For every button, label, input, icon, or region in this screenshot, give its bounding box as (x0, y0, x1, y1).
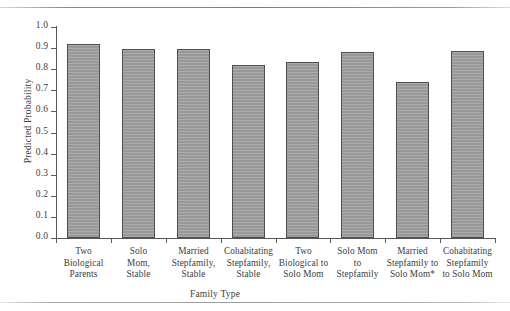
y-axis-tick-label: 0.0 (36, 231, 48, 241)
x-axis-category-label: SoloMom,Stable (107, 246, 170, 281)
x-axis-category-label-line: Married (162, 246, 225, 258)
y-axis-tick: 0.4 (51, 154, 56, 155)
y-axis-tick: 0.7 (51, 90, 56, 91)
x-axis-tick (111, 238, 112, 243)
bar (286, 62, 319, 238)
x-axis-category-label: MarriedStepfamily,Stable (162, 246, 225, 281)
x-axis-category-label-line: Stepfamily, (217, 258, 280, 270)
x-axis-category-label-line: Biological (52, 258, 115, 270)
x-axis-category-label-line: Married (381, 246, 444, 258)
y-axis-tick-label: 0.1 (36, 210, 48, 220)
x-axis-category-label-line: Cohabitating (217, 246, 280, 258)
y-axis-tick: 1.0 (51, 27, 56, 28)
y-axis-tick: 0.3 (51, 175, 56, 176)
page-rule-bottom (0, 302, 510, 303)
bar (341, 52, 374, 238)
y-axis-tick-label: 0.5 (36, 126, 48, 136)
x-axis-category-label-line: Solo Mom (326, 246, 389, 258)
y-axis-tick: 0.1 (51, 217, 56, 218)
bar (451, 51, 484, 238)
x-axis-category-label-line: Stable (217, 269, 280, 281)
y-axis-tick-label: 0.9 (36, 41, 48, 51)
x-axis-category-label-line: to (326, 258, 389, 270)
y-axis-tick: 0.5 (51, 133, 56, 134)
x-axis-category-label: CohabitatingStepfamilyto Solo Mom (436, 246, 499, 281)
x-axis-tick (276, 238, 277, 243)
x-axis-category-label-line: Solo Mom* (381, 269, 444, 281)
bar (122, 49, 155, 238)
bar (67, 44, 100, 238)
plot-area: 1.00.90.80.70.60.50.40.30.20.10.0 (56, 27, 495, 238)
y-axis-tick-label: 0.8 (36, 62, 48, 72)
y-axis-tick-label: 0.4 (36, 147, 48, 157)
x-axis-category-label: MarriedStepfamily toSolo Mom* (381, 246, 444, 281)
x-axis-category-label-line: Cohabitating (436, 246, 499, 258)
x-axis-category-label-line: to Solo Mom (436, 269, 499, 281)
x-axis-category-label: TwoBiologicalParents (52, 246, 115, 281)
running-head (255, 0, 505, 7)
x-axis-category-label-line: Stepfamily (326, 269, 389, 281)
x-axis-category-label-line: Stepfamily (436, 258, 499, 270)
y-axis-tick: 0.6 (51, 111, 56, 112)
x-axis-title: Family Type (0, 289, 430, 299)
x-axis-category-label-line: Stable (162, 269, 225, 281)
x-axis-tick (385, 238, 386, 243)
x-axis-category-label-line: Stepfamily to (381, 258, 444, 270)
y-axis-line (56, 26, 57, 239)
x-axis-category-label-line: Mom, (107, 258, 170, 270)
x-axis-tick (495, 238, 496, 243)
y-axis-tick: 0.2 (51, 196, 56, 197)
y-axis-tick-label: 1.0 (36, 20, 48, 30)
x-axis-category-label: CohabitatingStepfamily,Stable (217, 246, 280, 281)
figure-bar-chart: Predicted Probability 1.00.90.80.70.60.5… (0, 8, 510, 300)
bar (232, 65, 265, 238)
x-axis-category-label-line: Stepfamily, (162, 258, 225, 270)
x-axis-category-label-line: Two (52, 246, 115, 258)
x-axis-tick (166, 238, 167, 243)
bar (177, 49, 210, 238)
x-axis-tick (330, 238, 331, 243)
x-axis-category-label: Solo MomtoStepfamily (326, 246, 389, 281)
x-axis-tick (221, 238, 222, 243)
y-axis-tick: 0.9 (51, 48, 56, 49)
x-axis-category-label-line: Solo (107, 246, 170, 258)
x-axis-category-label-line: Stable (107, 269, 170, 281)
y-axis-tick-label: 0.3 (36, 168, 48, 178)
y-axis-tick-label: 0.6 (36, 104, 48, 114)
x-axis-tick (440, 238, 441, 243)
x-axis-category-label-line: Parents (52, 269, 115, 281)
x-axis-tick (56, 238, 57, 243)
y-axis-tick-label: 0.2 (36, 189, 48, 199)
y-axis-tick: 0.8 (51, 69, 56, 70)
y-axis-tick-label: 0.7 (36, 83, 48, 93)
bar (396, 82, 429, 238)
y-axis-title: Predicted Probability (23, 41, 33, 201)
